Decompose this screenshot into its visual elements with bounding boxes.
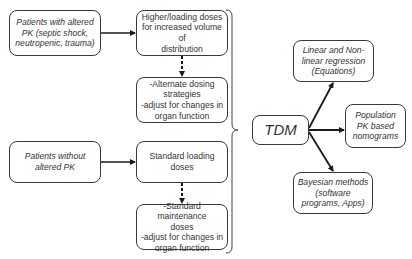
altered-pk-patients-box: Patients with altered PK (septic shock, … — [9, 10, 101, 56]
higher-loading-doses-box: Higher/loading doses for increased volum… — [136, 10, 228, 56]
standard-loading-doses-box: Standard loading doses — [136, 141, 228, 183]
standard-maintenance-box: -Standard maintenance doses -adjust for … — [136, 204, 228, 250]
arrow-tdm-to-bayesian — [309, 132, 333, 171]
bayesian-methods-box: Bayesian methods (software programs, App… — [293, 172, 373, 214]
alternate-dosing-box: -Alternate dosing strategies -adjust for… — [136, 77, 228, 123]
linear-regression-box: Linear and Non- linear regression (Equat… — [293, 40, 374, 82]
population-nomograms-box: Population PK based nomograms — [345, 104, 406, 148]
arrow-tdm-to-linear — [309, 83, 333, 128]
tdm-box: TDM — [252, 115, 309, 145]
without-altered-pk-patients-box: Patients without altered PK — [9, 141, 101, 183]
